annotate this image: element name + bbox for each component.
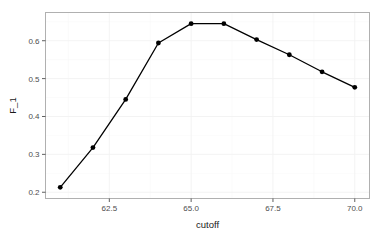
line-chart: 62.565.067.570.0 0.20.30.40.50.6 cutoff …	[0, 0, 388, 233]
data-point	[58, 185, 63, 190]
y-tick-label: 0.3	[28, 150, 40, 159]
x-tick-label: 62.5	[102, 204, 118, 213]
data-point	[320, 69, 325, 74]
data-point	[221, 21, 226, 26]
chart-figure: 62.565.067.570.0 0.20.30.40.50.6 cutoff …	[0, 0, 388, 233]
x-tick-label: 67.5	[265, 204, 281, 213]
x-tick-label: 70.0	[347, 204, 363, 213]
data-point	[189, 21, 194, 26]
data-point	[156, 41, 161, 46]
data-point	[287, 52, 292, 57]
x-axis-title: cutoff	[196, 219, 219, 230]
data-point	[91, 145, 96, 150]
y-tick-label: 0.4	[28, 112, 40, 121]
data-point	[352, 85, 357, 90]
x-tick-label: 65.0	[183, 204, 199, 213]
y-tick-label: 0.6	[28, 37, 40, 46]
data-point	[123, 97, 128, 102]
y-tick-label: 0.5	[28, 75, 40, 84]
data-point	[254, 37, 259, 42]
y-axis-title: F_1	[7, 97, 18, 113]
y-tick-label: 0.2	[28, 188, 40, 197]
